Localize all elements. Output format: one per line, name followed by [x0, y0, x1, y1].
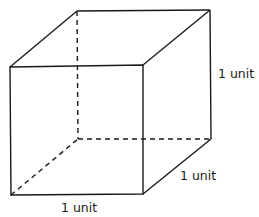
top-left-edge — [10, 11, 77, 67]
front-face — [10, 65, 143, 195]
back-right-vertical-edge — [210, 10, 211, 139]
depth-label: 1 unit — [180, 168, 216, 183]
height-label: 1 unit — [218, 66, 254, 81]
top-back-edge — [77, 10, 210, 11]
bottom-right-depth-edge — [143, 139, 211, 194]
hidden-back-left-vertical-edge — [77, 11, 78, 139]
width-label: 1 unit — [61, 200, 97, 215]
cube-diagram: 1 unit 1 unit 1 unit — [0, 0, 259, 217]
top-right-edge — [143, 10, 210, 65]
hidden-bottom-left-depth-edge — [11, 139, 78, 195]
